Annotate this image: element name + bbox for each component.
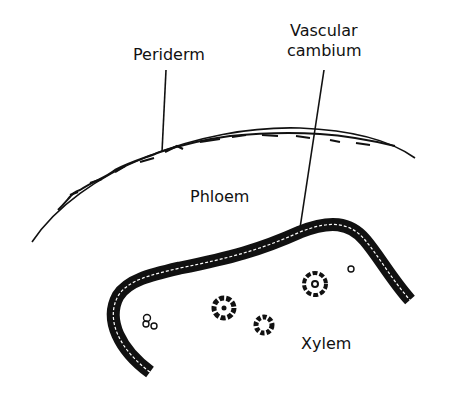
xylem-label: Xylem xyxy=(301,334,351,353)
periderm-label: Periderm xyxy=(133,45,205,64)
vascular-cambium-band xyxy=(113,224,410,372)
vascular-cambium-leader-line xyxy=(300,70,324,228)
stem-cross-section-diagram: Periderm Vascular cambium Phloem Xylem xyxy=(0,0,451,405)
phloem-label: Phloem xyxy=(190,187,249,206)
vascular-cambium-label-line1: Vascular xyxy=(290,21,358,40)
xylem-vessels xyxy=(143,266,354,333)
vascular-cambium-label-line2: cambium xyxy=(287,41,362,60)
periderm-bark-texture xyxy=(70,135,370,195)
periderm-leader-line xyxy=(162,70,166,152)
